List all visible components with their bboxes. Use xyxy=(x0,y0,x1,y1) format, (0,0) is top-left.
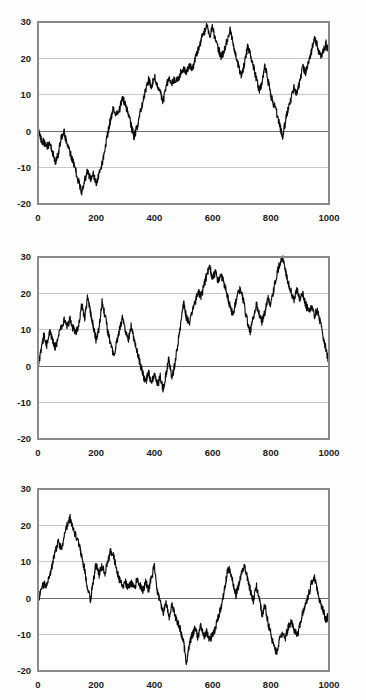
chart-svg-1: -20-10010203002004006008001000 xyxy=(0,0,366,230)
x-tick-label-0: 0 xyxy=(35,447,40,458)
y-tick-label-10: 10 xyxy=(20,89,31,100)
x-tick-label-0: 0 xyxy=(35,212,40,223)
chart-panel-1: -20-10010203002004006008001000 xyxy=(0,0,366,230)
y-tick-label-0: 0 xyxy=(26,361,31,372)
chart-panel-2: -20-10010203002004006008001000 xyxy=(0,235,366,465)
x-tick-label-600: 600 xyxy=(205,679,221,690)
chart-svg-3: -20-10010203002004006008001000 xyxy=(0,467,366,697)
x-tick-label-600: 600 xyxy=(205,447,221,458)
y-tick-label-20: 20 xyxy=(20,520,31,531)
x-tick-label-1000: 1000 xyxy=(318,447,339,458)
y-axis-tick-labels: -20-100102030 xyxy=(17,16,31,209)
x-tick-label-600: 600 xyxy=(205,212,221,223)
y-tick-label-20: 20 xyxy=(20,53,31,64)
x-tick-label-200: 200 xyxy=(88,679,104,690)
plot-background xyxy=(38,22,329,204)
y-tick-label-0: 0 xyxy=(26,126,31,137)
plot-background xyxy=(38,257,329,439)
y-tick-label--10: -10 xyxy=(17,397,31,408)
x-tick-label-800: 800 xyxy=(263,447,279,458)
x-tick-label-800: 800 xyxy=(263,679,279,690)
y-tick-label-10: 10 xyxy=(20,556,31,567)
y-axis-tick-labels: -20-100102030 xyxy=(17,251,31,444)
y-tick-label--10: -10 xyxy=(17,629,31,640)
x-tick-label-200: 200 xyxy=(88,212,104,223)
chart-svg-2: -20-10010203002004006008001000 xyxy=(0,235,366,465)
x-tick-label-1000: 1000 xyxy=(318,212,339,223)
y-tick-label-30: 30 xyxy=(20,251,31,262)
y-tick-label--10: -10 xyxy=(17,162,31,173)
y-tick-label-0: 0 xyxy=(26,593,31,604)
x-tick-label-800: 800 xyxy=(263,212,279,223)
y-axis-tick-labels: -20-100102030 xyxy=(17,483,31,676)
y-tick-label--20: -20 xyxy=(17,665,31,676)
y-tick-label--20: -20 xyxy=(17,433,31,444)
x-tick-label-200: 200 xyxy=(88,447,104,458)
y-tick-label-30: 30 xyxy=(20,16,31,27)
plot-background xyxy=(38,489,329,671)
x-tick-label-400: 400 xyxy=(146,447,162,458)
y-tick-label-20: 20 xyxy=(20,288,31,299)
x-tick-label-1000: 1000 xyxy=(318,679,339,690)
y-tick-label-10: 10 xyxy=(20,324,31,335)
x-axis-tick-labels: 02004006008001000 xyxy=(35,447,339,458)
y-tick-label-30: 30 xyxy=(20,483,31,494)
x-tick-label-400: 400 xyxy=(146,679,162,690)
x-tick-label-0: 0 xyxy=(35,679,40,690)
x-axis-tick-labels: 02004006008001000 xyxy=(35,679,339,690)
page-root: -20-10010203002004006008001000 -20-10010… xyxy=(0,0,366,700)
x-axis-tick-labels: 02004006008001000 xyxy=(35,212,339,223)
chart-panel-3: -20-10010203002004006008001000 xyxy=(0,467,366,697)
y-tick-label--20: -20 xyxy=(17,198,31,209)
x-tick-label-400: 400 xyxy=(146,212,162,223)
